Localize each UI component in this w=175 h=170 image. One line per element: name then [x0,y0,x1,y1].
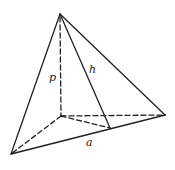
pyramid-diagram: p h a [0,0,175,170]
hidden-edge-right [61,115,165,116]
edge-apex-right [60,14,165,115]
hidden-edge-to-foot [61,116,110,128]
label-h: h [89,63,96,76]
label-p: p [49,71,56,84]
slant-height-h [60,14,110,128]
label-a: a [86,136,93,149]
pyramid-figure: p h a [0,0,175,170]
height-p [60,17,61,116]
edge-apex-left [11,14,60,154]
